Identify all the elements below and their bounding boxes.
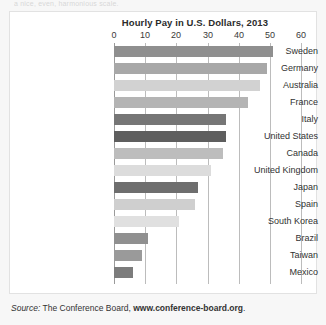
category-label: United Kingdom: [218, 162, 318, 179]
plot-area: 0102030405060SwedenGermanyAustraliaFranc…: [10, 12, 318, 295]
figure-container: a nice, even, harmonious scale. Hourly P…: [0, 0, 326, 325]
x-tick-label: 30: [203, 30, 213, 40]
bar: [114, 165, 211, 176]
bar: [114, 46, 273, 57]
bar-row: United Kingdom: [10, 162, 318, 179]
bar-row: United States: [10, 128, 318, 145]
bar: [114, 216, 179, 227]
category-label: Japan: [218, 179, 318, 196]
bar-row: France: [10, 94, 318, 111]
bar: [114, 63, 267, 74]
bar: [114, 199, 195, 210]
category-label: Brazil: [218, 230, 318, 247]
category-label: United States: [218, 128, 318, 145]
bar-row: Mexico: [10, 264, 318, 281]
category-label: Mexico: [218, 264, 318, 281]
bar-row: Canada: [10, 145, 318, 162]
category-label: Spain: [218, 196, 318, 213]
bar: [114, 97, 248, 108]
category-label: South Korea: [218, 213, 318, 230]
bar-row: Japan: [10, 179, 318, 196]
bar-row: Spain: [10, 196, 318, 213]
category-label: Italy: [218, 111, 318, 128]
bar: [114, 80, 260, 91]
bar-row: Australia: [10, 77, 318, 94]
category-label: Taiwan: [218, 247, 318, 264]
x-tick-label: 50: [265, 30, 275, 40]
cut-off-body-text: a nice, even, harmonious scale.: [14, 0, 194, 8]
bar-row: South Korea: [10, 213, 318, 230]
bar-row: Germany: [10, 60, 318, 77]
chart-panel: Hourly Pay in U.S. Dollars, 2013 0102030…: [9, 11, 317, 294]
bar: [114, 267, 133, 278]
bar-row: Sweden: [10, 43, 318, 60]
bar: [114, 250, 142, 261]
x-tick-label: 60: [296, 30, 306, 40]
source-period: .: [243, 303, 245, 313]
source-prefix: Source:: [11, 303, 40, 313]
x-tick-label: 40: [234, 30, 244, 40]
bar: [114, 233, 148, 244]
source-org: The Conference Board,: [43, 303, 131, 313]
bar-row: Brazil: [10, 230, 318, 247]
bar: [114, 131, 226, 142]
bar: [114, 148, 223, 159]
bar: [114, 182, 198, 193]
category-label: Canada: [218, 145, 318, 162]
x-tick-label: 20: [171, 30, 181, 40]
bar-row: Italy: [10, 111, 318, 128]
x-tick-label: 10: [140, 30, 150, 40]
bar: [114, 114, 226, 125]
x-tick-label: 0: [111, 30, 116, 40]
source-note: Source: The Conference Board, www.confer…: [11, 303, 245, 313]
bar-row: Taiwan: [10, 247, 318, 264]
source-url[interactable]: www.conference-board.org: [133, 303, 243, 313]
